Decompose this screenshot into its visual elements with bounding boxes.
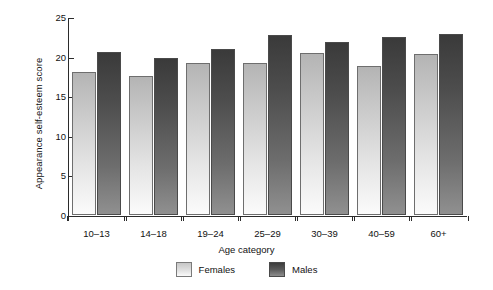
x-axis-title: Age category [0, 244, 493, 255]
chart-legend: FemalesMales [0, 262, 493, 277]
bar-males-10-13 [97, 52, 121, 215]
bar-group [410, 17, 467, 215]
x-axis-tick-mark [297, 216, 298, 221]
x-axis-tick-mark [295, 216, 296, 221]
bar-males-60+ [439, 34, 463, 215]
bar-females-25-29 [243, 63, 267, 215]
x-axis-tick-mark [183, 216, 184, 221]
x-axis-tick-label: 30–39 [296, 228, 353, 239]
plot-area: 0510152025 [68, 18, 467, 216]
bar-chart-figure: Appearance self-esteem score 0510152025 … [0, 0, 493, 290]
y-axis-tick-label: 5 [26, 170, 66, 181]
x-axis-tick-label: 19–24 [182, 228, 239, 239]
x-axis-tick-mark [67, 216, 68, 221]
x-axis-tick-mark [124, 216, 125, 221]
bar-females-60+ [414, 54, 438, 215]
y-axis-tick-label: 10 [26, 131, 66, 142]
y-axis-tick-label: 0 [26, 210, 66, 221]
legend-swatch-females [176, 262, 192, 277]
y-axis-tick-label: 15 [26, 91, 66, 102]
x-axis-tick-mark [68, 216, 69, 221]
bar-males-40-59 [382, 37, 406, 215]
legend-swatch-males [269, 262, 285, 277]
x-axis-tick-mark [238, 216, 239, 221]
x-axis-tick-mark [240, 216, 241, 221]
x-axis-line [68, 216, 467, 217]
x-axis-tick-mark [468, 216, 469, 221]
bar-females-30-39 [300, 53, 324, 215]
x-axis-tick-mark [352, 216, 353, 221]
x-axis-tick-mark [354, 216, 355, 221]
bar-females-14-18 [129, 76, 153, 215]
bar-males-19-24 [211, 49, 235, 215]
y-axis-tick-label: 20 [26, 52, 66, 63]
y-axis-tick-mark [69, 216, 74, 217]
bar-females-10-13 [72, 72, 96, 215]
bar-group [182, 17, 239, 215]
x-axis-tick-label: 60+ [410, 228, 467, 239]
legend-entry-females: Females [176, 262, 235, 277]
bar-group [68, 17, 125, 215]
bar-males-14-18 [154, 58, 178, 215]
x-axis-tick-label: 10–13 [68, 228, 125, 239]
bar-group [296, 17, 353, 215]
x-axis-tick-mark [126, 216, 127, 221]
bar-males-30-39 [325, 42, 349, 215]
x-axis-tick-label: 40–59 [353, 228, 410, 239]
bar-group [125, 17, 182, 215]
x-axis-tick-mark [181, 216, 182, 221]
legend-entry-males: Males [269, 262, 317, 277]
bar-group [353, 17, 410, 215]
y-axis-tick-label: 25 [26, 12, 66, 23]
bar-males-25-29 [268, 35, 292, 215]
x-axis-tick-mark [411, 216, 412, 221]
legend-label-males: Males [292, 264, 317, 275]
bar-females-19-24 [186, 63, 210, 215]
bar-females-40-59 [357, 66, 381, 215]
x-axis-tick-label: 14–18 [125, 228, 182, 239]
bar-group [239, 17, 296, 215]
x-axis-tick-label: 25–29 [239, 228, 296, 239]
legend-label-females: Females [199, 264, 235, 275]
x-axis-tick-mark [409, 216, 410, 221]
